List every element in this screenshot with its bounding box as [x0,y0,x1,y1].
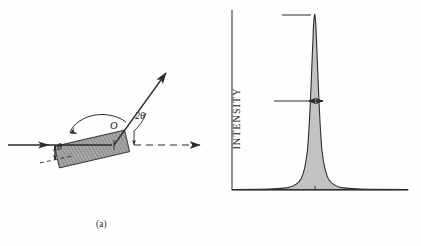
panel-a-drawing [0,0,212,246]
theta-angle-label: θ [57,141,62,152]
intensity-peak-curve [232,14,408,189]
hatched-specimen-rectangle [54,130,129,168]
panel-a-diffraction-geometry: θ 2θ O (a) [0,0,212,246]
y-axis-title: INTENSITY [231,64,242,174]
figure-root: θ 2θ O (a) [0,0,421,246]
panel-b-intensity-plot: Imax 12Imax B 2θB DIFFRACTION ANGLE 2θ I… [212,0,421,246]
panel-b-chart [212,0,421,246]
origin-label: O [110,120,118,131]
two-theta-angle-label: 2θ [135,110,145,121]
diffracted-beam-arrow [114,73,166,145]
caption-a: (a) [96,219,107,229]
